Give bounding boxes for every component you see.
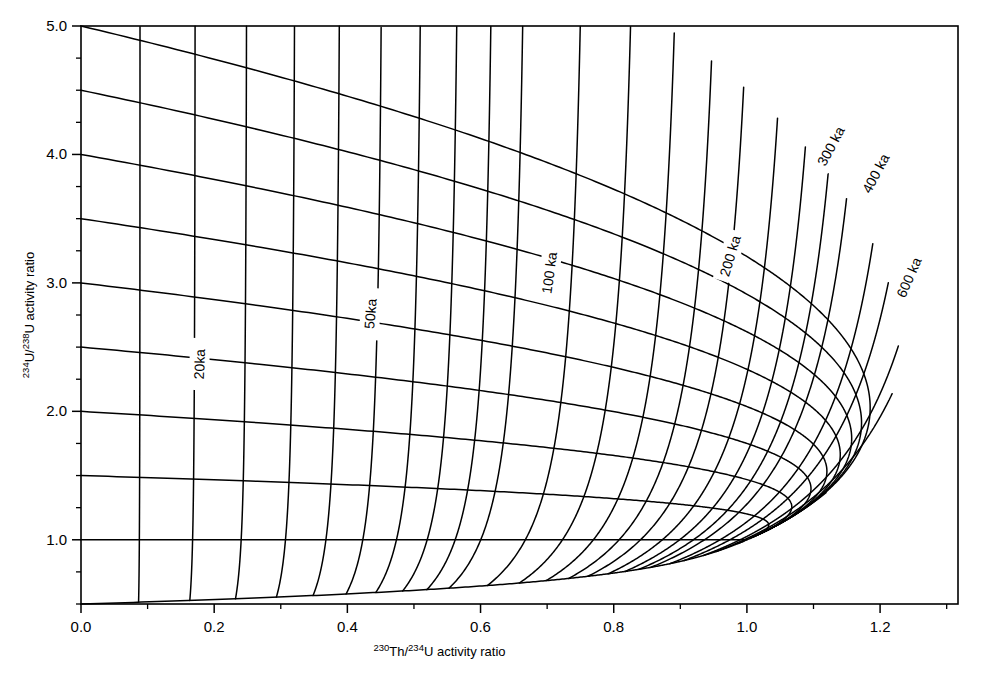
x-tick-label: 0.4 [337,618,358,635]
isochron-curve [427,26,491,589]
isochron-label: 300 ka [810,119,852,174]
y-tick-label: 4.0 [46,145,67,162]
isochron-label: 50ka [358,287,382,341]
x-tick-label: 0.8 [603,618,624,635]
axis-ticks-layer [72,26,947,613]
isochron-curve [519,27,630,583]
isochron-label: 600 ka [889,250,928,306]
isochron-curve [190,26,195,600]
isochron-label: 200 ka [713,228,747,284]
isochron-curve [670,244,873,564]
isochron-label-text: 600 ka [893,255,925,300]
isochron-curves-layer [139,26,899,602]
y-axis-title: 234U/238U activity ratio [20,252,37,378]
y-tick-label: 3.0 [46,274,67,291]
isochron-curve [403,27,457,591]
plot-frame [81,26,958,604]
evolution-curve [81,541,744,604]
y-axis-title-text: 234U/238U activity ratio [20,252,37,378]
isochron-curve [449,26,523,588]
figure-root: 0.00.20.40.60.81.01.21.02.03.04.05.0 20k… [0,0,982,681]
isochron-label-text: 50ka [361,298,380,330]
isochron-curve [236,26,247,598]
x-tick-label: 0.2 [204,618,225,635]
isochron-curve [704,346,899,555]
x-tick-label: 1.2 [870,618,891,635]
isochron-curve [651,199,846,568]
isochron-label-text: 300 ka [814,124,848,169]
y-tick-label: 2.0 [46,402,67,419]
u-series-evolution-chart: 0.00.20.40.60.81.01.21.02.03.04.05.0 20k… [0,0,982,681]
y-tick-label: 1.0 [46,531,67,548]
isochron-curve [139,27,140,603]
isochron-curve [487,26,580,585]
isochron-curve [313,26,339,595]
isochron-label: 100 ka [536,246,563,300]
y-tick-label: 5.0 [46,17,67,34]
x-axis-title-text: 230Th/234U activity ratio [373,642,505,659]
evolution-curve [81,26,870,530]
x-tick-label: 1.0 [736,618,757,635]
x-axis-title: 230Th/234U activity ratio [373,642,505,659]
x-tick-label: 0.6 [470,618,491,635]
isochron-label-text: 400 ka [859,151,893,196]
evolution-curve [81,476,769,539]
x-tick-label: 0.0 [71,618,92,635]
isochron-label: 400 ka [855,146,897,201]
isochron-curve [276,27,294,597]
isochron-label: 20ka [188,338,210,391]
isochron-label-text: 20ka [191,348,208,379]
